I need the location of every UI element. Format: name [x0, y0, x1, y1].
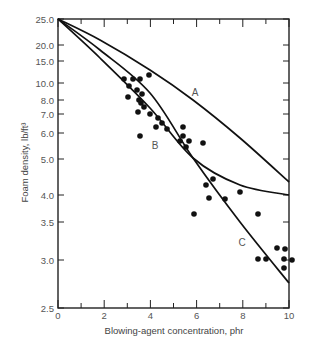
data-point [289, 257, 295, 263]
curve-label-b: B [152, 140, 159, 151]
data-point [206, 195, 212, 201]
data-point [255, 211, 261, 217]
data-point [134, 87, 140, 93]
data-point [164, 126, 170, 132]
data-point [237, 189, 243, 195]
data-point [177, 138, 183, 144]
data-point [141, 104, 147, 110]
curve-labels: ABC [152, 87, 246, 248]
y-tick-label: 6.0 [41, 128, 54, 139]
data-point [180, 133, 186, 139]
data-point [139, 91, 145, 97]
data-point [153, 124, 159, 130]
data-point [183, 144, 189, 150]
x-axis: 0246810 [55, 19, 294, 321]
data-point [281, 256, 287, 262]
data-point [135, 109, 141, 115]
curves [58, 19, 289, 283]
curve-b [58, 19, 289, 195]
data-point [282, 246, 288, 252]
data-point [180, 124, 186, 130]
data-point [203, 182, 209, 188]
data-point [281, 265, 287, 271]
x-tick-label: 10 [284, 310, 295, 321]
y-tick-label: 7.0 [41, 109, 54, 120]
chart-svg: 25.020.015.010.08.07.06.05.04.03.53.02.5… [0, 0, 310, 354]
y-tick-label: 15.0 [36, 56, 55, 67]
data-point [137, 133, 143, 139]
x-axis-label: Blowing-agent concentration, phr [58, 325, 290, 336]
data-point [200, 140, 206, 146]
scatter-points [121, 72, 295, 271]
x-tick-label: 6 [194, 310, 199, 321]
data-point [191, 211, 197, 217]
data-point [263, 256, 269, 262]
data-point [159, 120, 165, 126]
x-tick-label: 8 [240, 310, 245, 321]
data-point [121, 76, 127, 82]
data-point [255, 256, 261, 262]
plot-border [58, 19, 289, 308]
data-point [210, 176, 216, 182]
y-tick-label: 3.0 [41, 255, 54, 266]
data-point [222, 196, 228, 202]
data-point [130, 76, 136, 82]
data-point [137, 76, 143, 82]
curve-label-a: A [192, 87, 199, 98]
data-point [126, 83, 132, 89]
data-point [147, 111, 153, 117]
y-tick-label: 2.5 [41, 303, 54, 314]
y-tick-label: 20.0 [36, 40, 55, 51]
y-tick-label: 3.5 [41, 217, 54, 228]
data-point [274, 245, 280, 251]
data-point [125, 94, 131, 100]
y-tick-label: 25.0 [36, 14, 55, 25]
x-tick-label: 2 [102, 310, 107, 321]
y-axis-label: Foam density, lb/ft³ [19, 93, 30, 233]
curve-label-c: C [238, 237, 245, 248]
y-tick-label: 5.0 [41, 154, 54, 165]
x-tick-label: 4 [148, 310, 153, 321]
y-axis: 25.020.015.010.08.07.06.05.04.03.53.02.5 [36, 14, 290, 314]
y-tick-label: 10.0 [36, 78, 55, 89]
y-tick-label: 4.0 [41, 190, 54, 201]
data-point [155, 115, 161, 121]
data-point [146, 72, 152, 78]
y-tick-label: 8.0 [41, 95, 54, 106]
data-point [186, 138, 192, 144]
plot-frame [58, 19, 289, 308]
x-tick-label: 0 [55, 310, 60, 321]
